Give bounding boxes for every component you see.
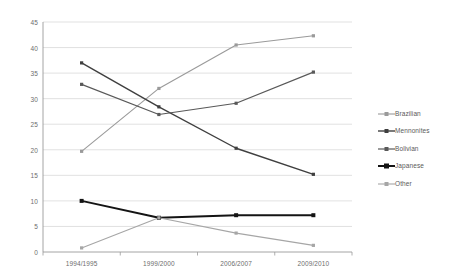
legend-label: Other	[395, 180, 412, 188]
x-tick-label-2: 2006/2007	[201, 260, 271, 268]
legend-item-bolivian[interactable]: Bolivian	[378, 140, 452, 158]
legend-item-japanese[interactable]: Japanese	[378, 158, 452, 176]
legend-key-icon	[378, 109, 395, 119]
legend-key-icon	[378, 161, 395, 171]
legend-key-icon	[378, 144, 395, 154]
chart-legend: BrazilianMennonitesBolivianJapaneseOther	[378, 105, 452, 193]
legend-key-icon	[378, 179, 395, 189]
legend-label: Mennonites	[395, 127, 430, 135]
legend-key-icon	[378, 126, 395, 136]
x-tick-label-0: 1994/1995	[47, 260, 117, 268]
legend-label: Brazilian	[395, 110, 421, 118]
legend-item-mennonites[interactable]: Mennonites	[378, 123, 452, 141]
legend-label: Bolivian	[395, 145, 419, 153]
line-chart: 454035302520151050 1994/19951999/2000200…	[0, 0, 453, 279]
x-tick-label-1: 1999/2000	[124, 260, 194, 268]
legend-label: Japanese	[395, 162, 424, 170]
x-axis-tick-labels: 1994/19951999/20002006/20072009/2010	[0, 0, 370, 279]
legend-item-other[interactable]: Other	[378, 175, 452, 193]
legend-item-brazilian[interactable]: Brazilian	[378, 105, 452, 123]
x-tick-label-3: 2009/2010	[278, 260, 348, 268]
